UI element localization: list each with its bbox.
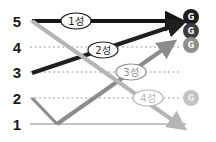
y-axis-tick-5: 5	[13, 13, 21, 30]
series-label-3성: 3성	[116, 64, 146, 80]
series-label-4성: 4성	[133, 90, 163, 106]
y-axis-tick-3: 3	[13, 64, 21, 81]
end-badge-glyph-1: G	[188, 13, 195, 22]
series-label-text-1성: 1성	[68, 16, 83, 27]
series-line-drop-segment	[32, 98, 57, 124]
end-badge-3: G	[183, 37, 199, 53]
series-label-text-3성: 3성	[123, 67, 138, 78]
series-label-2성: 2성	[88, 42, 118, 58]
end-badge-glyph-4: G	[188, 94, 195, 103]
series-label-text-4성: 4성	[140, 93, 155, 104]
end-badge-2: G	[183, 23, 199, 39]
y-axis-tick-4: 4	[13, 39, 22, 56]
rank-trajectory-chart: 54321 1성2성3성4성 GGGG	[0, 0, 216, 142]
chart-canvas: 54321 1성2성3성4성 GGGG	[0, 0, 216, 142]
end-badge-1: G	[183, 9, 199, 25]
end-badge-4: G	[183, 90, 199, 106]
end-badge-glyph-2: G	[188, 27, 195, 36]
y-axis-tick-labels: 54321	[13, 13, 22, 133]
y-axis-tick-1: 1	[13, 116, 21, 133]
end-badge-glyph-3: G	[188, 41, 195, 50]
series-label-text-2성: 2성	[95, 45, 110, 56]
end-badges-group: GGGG	[183, 9, 199, 106]
series-label-1성: 1성	[61, 13, 91, 29]
y-axis-tick-2: 2	[13, 90, 21, 107]
